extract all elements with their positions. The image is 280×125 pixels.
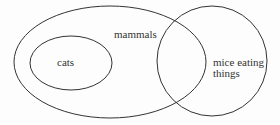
mammals-ellipse <box>14 6 206 118</box>
cats-label: cats <box>57 56 74 68</box>
venn-diagram: mammals cats mice eating things <box>0 0 280 125</box>
mice-eating-things-label-line2: things <box>213 67 240 79</box>
mammals-label: mammals <box>114 28 157 40</box>
